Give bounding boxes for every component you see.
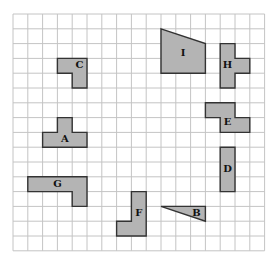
shape-label-e: E [224,116,232,127]
shape-label-c: C [76,59,84,70]
shape-label-b: B [192,207,200,218]
shape-label-f: F [135,207,142,218]
shape-label-g: G [53,178,62,189]
shape-label-h: H [223,59,232,70]
shape-label-i: I [181,47,186,58]
shape-grid-diagram: CIHEADGFB [0,0,272,262]
shape-label-a: A [60,133,69,144]
shape-label-d: D [223,163,232,174]
